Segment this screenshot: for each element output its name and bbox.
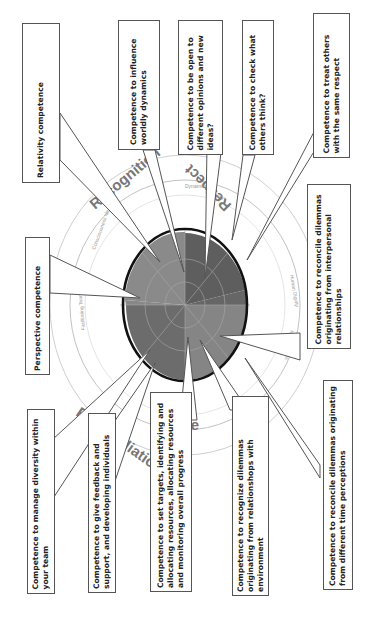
- callout-open: Competence to be open to different opini…: [178, 20, 223, 155]
- callout-check: Competence to check what others think?: [242, 20, 274, 155]
- callout-text: Perspective competence: [33, 241, 43, 371]
- diagram-stage: Recognition Respect Reconciliation Re Dy…: [0, 0, 369, 632]
- callout-environment: Competence to recognize dilemmas origina…: [232, 396, 269, 596]
- callout-targets: Competence to set targets, identifying a…: [150, 392, 192, 592]
- callout-text: Competence to recognize dilemmas origina…: [236, 400, 266, 592]
- callout-text: Competence to give feedback and support,…: [92, 417, 112, 589]
- chart-gridlines: [120, 228, 250, 382]
- callout-perspective: Perspective competence: [25, 237, 50, 375]
- callout-text: Competence to check what others think?: [248, 25, 268, 150]
- callout-respect: Competence to treat others with the same…: [313, 13, 350, 158]
- callout-text: Competence to reconcile dilemmas origina…: [328, 384, 348, 586]
- callout-text: Competence to reconcile dilemmas origina…: [314, 189, 344, 344]
- callout-interpersonal: Competence to reconcile dilemmas origina…: [307, 184, 351, 349]
- callout-text: Competence to influence worldly dynamics: [129, 25, 149, 145]
- callout-text: Competence to manage diversity within yo…: [31, 414, 51, 589]
- callout-time: Competence to reconcile dilemmas origina…: [323, 380, 353, 590]
- callout-text: Relativity competence: [36, 28, 46, 178]
- ring-label-dynamics: Dynamics: [185, 183, 207, 189]
- callout-text: Competence to be open to different opini…: [186, 25, 216, 150]
- callout-feedback: Competence to give feedback and support,…: [88, 413, 116, 593]
- callout-text: Competence to set targets, identifying a…: [156, 396, 186, 588]
- callout-relativity: Relativity competence: [22, 23, 60, 183]
- ring-label-teams: Facilitating Teams: [76, 290, 86, 331]
- callout-text: Competence to treat others with the same…: [322, 18, 342, 153]
- callout-influence: Competence to influence worldly dynamics: [118, 20, 160, 150]
- callout-diversity: Competence to manage diversity within yo…: [27, 409, 55, 594]
